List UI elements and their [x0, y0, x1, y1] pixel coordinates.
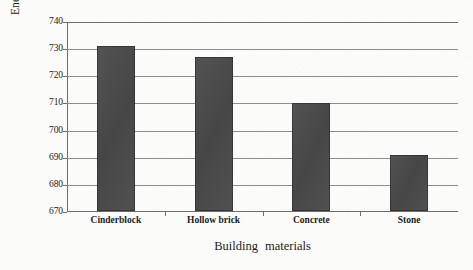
y-axis-tick-mark: [63, 131, 67, 132]
x-axis-category-labels: CinderblockHollow brickConcreteStone: [67, 214, 458, 230]
y-axis-tick-label: 740: [33, 17, 63, 27]
bar-cinderblock: [97, 46, 135, 211]
x-axis-category-label: Cinderblock: [67, 214, 165, 226]
plot-area: [67, 22, 458, 212]
y-axis-tick-mark: [63, 212, 67, 213]
y-axis-tick-mark: [63, 185, 67, 186]
bar-chart-figure: Energy consumption (KWh) 670680690700710…: [0, 0, 473, 270]
x-axis-category-label: Hollow brick: [165, 214, 263, 226]
bar-hollow-brick: [195, 57, 233, 211]
y-axis-tick-label: 720: [33, 71, 63, 81]
x-axis-category-label: Stone: [360, 214, 458, 226]
x-axis-category-label: Concrete: [263, 214, 361, 226]
y-axis-tick-labels: 670680690700710720730740: [32, 0, 63, 270]
y-axis-title: Energy consumption (KWh): [4, 0, 26, 44]
y-axis-tick-label: 730: [33, 44, 63, 54]
y-axis-tick-mark: [63, 158, 67, 159]
y-axis-tick-mark: [63, 103, 67, 104]
y-axis-tick-label: 690: [33, 153, 63, 163]
y-axis-tick-label: 700: [33, 126, 63, 136]
x-axis-title: Building materials: [67, 239, 458, 254]
bar-stone: [390, 155, 428, 211]
gridline: [67, 22, 458, 23]
y-axis-tick-label: 680: [33, 180, 63, 190]
y-axis-tick-mark: [63, 22, 67, 23]
bar-concrete: [292, 103, 330, 211]
y-axis-tick-label: 710: [33, 98, 63, 108]
y-axis-line: [67, 22, 68, 212]
y-axis-tick-mark: [63, 49, 67, 50]
y-axis-tick-label: 670: [33, 207, 63, 217]
y-axis-tick-mark: [63, 76, 67, 77]
